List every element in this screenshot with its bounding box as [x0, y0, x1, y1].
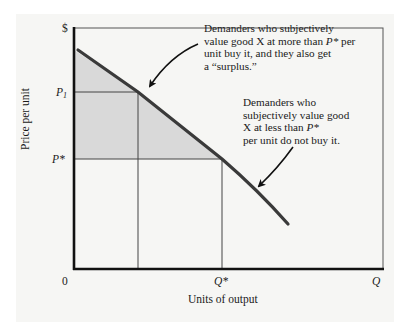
p1-tick-label: P1 — [56, 86, 67, 102]
upper-annotation: Demanders who subjectively value good X … — [204, 22, 355, 72]
x-axis-title: Units of output — [188, 293, 258, 305]
lower-annotation-line: X at less than P* — [243, 121, 349, 134]
upper-annotation-line: value good X at more than P* per — [204, 35, 355, 48]
upper-annotation-line: unit buy it, and they also get — [204, 47, 355, 60]
lower-annotation-line: per unit do not buy it. — [243, 134, 349, 147]
pstar-tick-label: P* — [52, 153, 65, 166]
upper-annotation-arrow — [150, 44, 198, 86]
lower-annotation-line: subjectively value good — [243, 109, 349, 122]
p1-main: P — [56, 86, 63, 98]
lower-annotation-line: Demanders who — [243, 96, 349, 109]
q-axis-end-label: Q — [372, 275, 380, 288]
lower-annotation-arrow — [259, 147, 293, 186]
p1-subscript: 1 — [63, 91, 67, 100]
y-axis-title: Price per unit — [19, 88, 31, 150]
qstar-tick-label: Q* — [214, 275, 228, 288]
origin-label: 0 — [62, 275, 68, 288]
lower-annotation: Demanders who subjectively value good X … — [243, 96, 349, 146]
upper-annotation-line: Demanders who subjectively — [204, 22, 355, 35]
upper-annotation-line: a “surplus.” — [204, 60, 355, 73]
y-axis-dollar-label: $ — [62, 22, 68, 35]
